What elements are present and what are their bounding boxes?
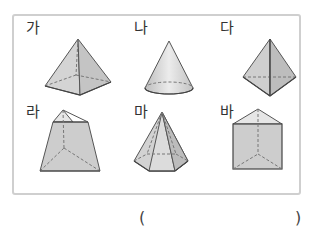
figure-item-ga: 가 <box>16 20 112 108</box>
square-pyramid-icon <box>16 20 116 110</box>
figure-item-ma: 마 <box>124 104 220 192</box>
figure-item-ra: 라 <box>16 104 112 192</box>
triangular-prism-icon <box>210 104 310 196</box>
figure-item-na: 나 <box>124 20 220 108</box>
figure-box: 가 나 다 <box>12 14 301 195</box>
cone-icon <box>124 20 224 110</box>
frustum-icon <box>16 104 116 196</box>
answer-open-paren: ( <box>139 208 145 227</box>
figure-item-da: 다 <box>210 20 306 108</box>
hexagonal-pyramid-icon <box>124 104 224 196</box>
figure-item-ba: 바 <box>210 104 306 192</box>
triangular-pyramid-icon <box>210 20 310 110</box>
answer-blank[interactable] <box>160 208 290 228</box>
answer-close-paren: ) <box>295 208 301 227</box>
